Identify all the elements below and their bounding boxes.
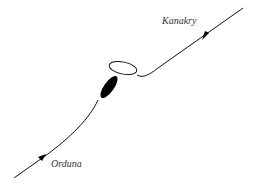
diagram-canvas: Kanakry Orduna bbox=[0, 0, 258, 186]
label-kanakry: Kanakry bbox=[162, 15, 196, 26]
filled-ellipse bbox=[97, 73, 120, 100]
open-ellipse bbox=[108, 59, 138, 77]
label-orduna: Orduna bbox=[51, 158, 82, 169]
trajectory-diagram bbox=[0, 0, 258, 186]
